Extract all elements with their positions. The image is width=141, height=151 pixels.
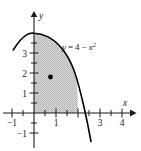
plot-canvas: −1 1 3 4 −1 1 2 3 x y y=4−x2 [0, 0, 141, 151]
equation-equals: = [68, 42, 73, 52]
x-tick-label--1: −1 [7, 118, 17, 128]
equation-exponent: 2 [93, 41, 97, 48]
y-axis-label: y [38, 11, 44, 21]
equation-constant: 4 [75, 42, 80, 52]
x-axis-arrow [130, 110, 137, 117]
equation-lhs: y [61, 42, 66, 52]
x-tick-label-4: 4 [120, 118, 125, 128]
x-tick-label-3: 3 [98, 118, 103, 128]
curve-equation-label: y=4−x2 [61, 41, 97, 52]
parabola-figure: −1 1 3 4 −1 1 2 3 x y y=4−x2 [0, 0, 141, 151]
x-axis-label: x [122, 98, 128, 108]
y-tick-label--1: −1 [17, 129, 27, 139]
y-tick-label-2: 2 [22, 69, 27, 79]
y-tick-label-1: 1 [22, 89, 27, 99]
y-axis-arrow [31, 11, 38, 17]
x-tick-label-1: 1 [54, 118, 59, 128]
centroid-dot [48, 75, 53, 80]
equation-minus: − [82, 42, 87, 52]
y-tick-label-3: 3 [22, 49, 27, 59]
